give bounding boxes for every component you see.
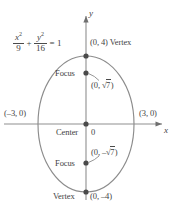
x-axis-arrowhead [156, 121, 163, 126]
center-label: Center [56, 128, 78, 137]
sqrt-icon: √7 [102, 81, 111, 90]
origin-label: 0 [91, 128, 95, 137]
focus-top-coordinate: (0, √7) [91, 81, 113, 90]
vertex-bottom-point [83, 189, 88, 194]
vertex-top-label: (0, 4) Vertex [90, 38, 131, 47]
vertex-bottom-coordinate: (0, –4) [90, 192, 112, 201]
ellipse-figure: x2 9 + y2 16 = 1 y x (0, 4) Vertex Focus… [0, 0, 176, 207]
focus-top-coord-close: ) [111, 80, 114, 90]
co-vertex-right-label: (3, 0) [139, 109, 157, 118]
x-term-denominator: 9 [14, 44, 23, 54]
equals-one: = 1 [50, 38, 62, 48]
figure-canvas [0, 0, 176, 207]
plus-operator: + [27, 38, 32, 48]
x-term-numerator: x2 [13, 33, 24, 43]
y-term-fraction: y2 16 [34, 33, 47, 53]
center-point [83, 121, 88, 126]
x-axis-label: x [164, 126, 168, 135]
focus-bottom-coord-open: (0, – [91, 147, 106, 157]
y-axis-label: y [89, 9, 93, 18]
focus-bottom-coord-close: ) [115, 147, 118, 157]
focus-bottom-label: Focus [55, 159, 75, 168]
ellipse-equation: x2 9 + y2 16 = 1 [12, 33, 63, 53]
focus-bottom-point [83, 160, 88, 165]
x-term-fraction: x2 9 [13, 33, 24, 53]
focus-bottom-coordinate: (0, –√7) [91, 148, 118, 157]
y-axis-arrowhead [83, 16, 88, 23]
focus-top-point [83, 70, 88, 75]
y-term-numerator: y2 [35, 33, 46, 43]
vertex-top-point [83, 53, 88, 58]
vertex-bottom-word: Vertex [53, 192, 75, 201]
co-vertex-left-label: (–3, 0) [4, 109, 26, 118]
focus-top-coord-open: (0, [91, 80, 102, 90]
y-term-denominator: 16 [34, 44, 47, 54]
focus-top-label: Focus [55, 69, 75, 78]
sqrt-icon: √7 [106, 148, 115, 157]
